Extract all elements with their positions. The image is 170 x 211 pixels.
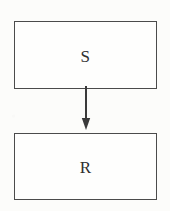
edge-s-to-r bbox=[74, 86, 98, 134]
arrowhead-down-icon bbox=[82, 118, 90, 130]
node-r[interactable]: R bbox=[14, 133, 157, 200]
node-s-label: S bbox=[81, 48, 91, 65]
node-r-label: R bbox=[80, 159, 92, 176]
diagram-canvas: S R bbox=[0, 0, 170, 211]
node-s[interactable]: S bbox=[14, 21, 157, 89]
